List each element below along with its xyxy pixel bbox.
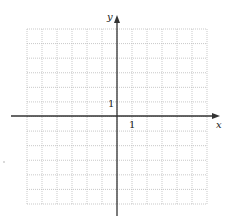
- coordinate-plane: x y 1 1: [0, 0, 233, 217]
- x-axis-label: x: [216, 119, 222, 130]
- y-tick-label: 1: [108, 98, 114, 109]
- stray-dot: [3, 161, 5, 163]
- y-axis-arrow-icon: [114, 15, 120, 23]
- y-axis-label: y: [106, 11, 113, 22]
- x-tick-label: 1: [129, 119, 135, 130]
